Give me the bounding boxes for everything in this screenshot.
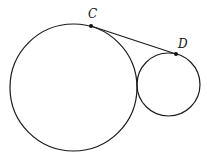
geometry-svg — [0, 0, 207, 158]
point-d-label: D — [178, 38, 188, 50]
large-circle — [10, 24, 137, 151]
point-c-label: C — [88, 8, 97, 20]
small-circle — [137, 53, 200, 116]
point-c-dot — [89, 24, 93, 28]
tangent-segment-cd — [91, 26, 176, 54]
diagram-canvas: C D — [0, 0, 207, 158]
point-d-dot — [174, 52, 178, 56]
